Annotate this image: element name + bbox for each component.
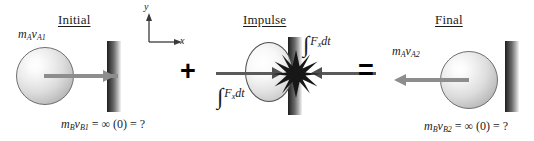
plus-operator: + xyxy=(180,58,196,85)
wall-momentum-label-initial: mBvB1 = ∞ (0) = ? xyxy=(61,117,145,132)
burst-star-shape xyxy=(272,50,320,98)
velocity-symbol-b1: vB1 xyxy=(75,117,89,131)
collision-burst-icon xyxy=(272,50,320,98)
wall-momentum-label-final: mBvB2 = ∞ (0) = ? xyxy=(424,119,508,134)
force-symbol-top: Fx xyxy=(310,34,321,48)
mass-symbol-a2: mA xyxy=(392,44,406,58)
velocity-symbol-a1: vA1 xyxy=(32,27,46,41)
dt-symbol-bottom: dt xyxy=(235,86,244,100)
collision-burst-svg xyxy=(272,50,320,98)
impulse-arrow-shaft-left xyxy=(216,72,278,75)
impulse-label-bottom: ∫Fxdt xyxy=(217,86,245,104)
panel-title-impulse: Impulse xyxy=(243,12,286,28)
momentum-label-final: mAvA2 xyxy=(392,44,420,59)
panel-title-final: Final xyxy=(435,12,463,28)
equals-operator: = xyxy=(358,57,374,84)
velocity-arrow-head-final xyxy=(394,74,406,86)
y-axis-label: y xyxy=(144,1,148,12)
momentum-label-initial: mAvA1 xyxy=(18,27,46,42)
mass-symbol-a1: mA xyxy=(18,27,32,41)
mass-symbol-b2: mB xyxy=(424,119,438,133)
impulse-momentum-diagram: Initial mAvA1 mBvB1 = ∞ (0) = ? y x + Im… xyxy=(0,0,534,141)
x-axis-label: x xyxy=(180,35,184,46)
wall-b-final xyxy=(505,41,519,112)
dt-symbol-top: dt xyxy=(321,34,330,48)
wall-momentum-value-initial: = ∞ (0) = ? xyxy=(92,117,145,131)
y-axis-arrowhead-icon xyxy=(146,13,152,21)
panel-title-initial: Initial xyxy=(58,12,90,28)
impulse-label-top: ∫Fxdt xyxy=(303,34,331,52)
velocity-arrow-head-initial xyxy=(103,70,115,82)
wall-momentum-value-final: = ∞ (0) = ? xyxy=(455,119,508,133)
velocity-arrow-shaft-final xyxy=(403,78,469,82)
mass-symbol-b1: mB xyxy=(61,117,75,131)
force-symbol-bottom: Fx xyxy=(224,86,235,100)
coordinate-axes: y x xyxy=(140,6,186,48)
velocity-symbol-a2: vA2 xyxy=(406,44,420,58)
velocity-symbol-b2: vB2 xyxy=(438,119,452,133)
